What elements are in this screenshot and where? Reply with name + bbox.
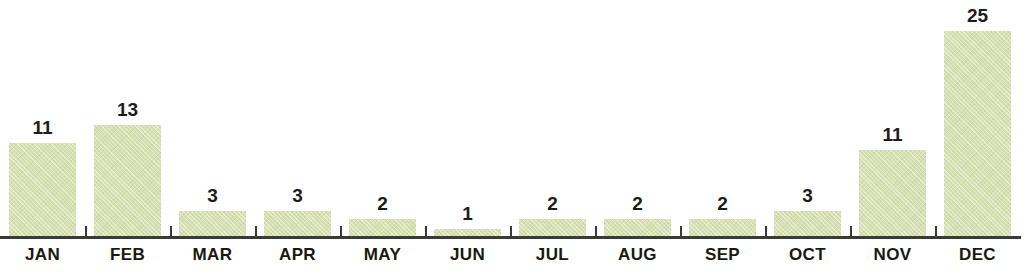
axis-tick (85, 226, 87, 237)
category-label-apr: APR (255, 244, 340, 266)
bar-value-label: 2 (595, 194, 680, 213)
bar-value-label: 13 (85, 100, 170, 119)
bar-slot[interactable]: 13 (85, 0, 170, 238)
bar-value-label: 25 (935, 6, 1020, 25)
bar-value-label: 3 (765, 186, 850, 205)
category-label-feb: FEB (85, 244, 170, 266)
category-label-dec: DEC (935, 244, 1020, 266)
axis-tick (510, 226, 512, 237)
category-axis-labels: JAN FEB MAR APR MAY JUN JUL AUG SEP OCT … (0, 244, 1022, 274)
category-label-sep: SEP (680, 244, 765, 266)
bar-slot[interactable]: 2 (680, 0, 765, 238)
axis-tick (425, 226, 427, 237)
category-label-aug: AUG (595, 244, 680, 266)
category-label-oct: OCT (765, 244, 850, 266)
bar-slot[interactable]: 3 (765, 0, 850, 238)
bar[interactable] (179, 211, 245, 238)
bar-slot[interactable]: 25 (935, 0, 1020, 238)
category-label-may: MAY (340, 244, 425, 266)
axis-tick (170, 226, 172, 237)
bar-slot[interactable]: 1 (425, 0, 510, 238)
bar-value-label: 1 (425, 204, 510, 223)
bar[interactable] (9, 143, 75, 238)
bar[interactable] (774, 211, 840, 238)
bar-value-label: 11 (850, 125, 935, 144)
bar-slot[interactable]: 3 (170, 0, 255, 238)
category-label-mar: MAR (170, 244, 255, 266)
axis-tick (255, 226, 257, 237)
bar[interactable] (264, 211, 330, 238)
bar-slot[interactable]: 11 (0, 0, 85, 238)
bar-slot[interactable]: 2 (340, 0, 425, 238)
bar[interactable] (94, 125, 160, 238)
bar-value-label: 3 (255, 186, 340, 205)
plot-area: 11 13 3 3 2 1 2 2 (0, 0, 1022, 238)
bar-slot[interactable]: 2 (595, 0, 680, 238)
bar-value-label: 2 (680, 194, 765, 213)
axis-tick (935, 226, 937, 237)
bar-value-label: 2 (340, 194, 425, 213)
category-label-nov: NOV (850, 244, 935, 266)
bar-slot[interactable]: 11 (850, 0, 935, 238)
axis-tick (765, 226, 767, 237)
bar-value-label: 2 (510, 194, 595, 213)
category-label-jan: JAN (0, 244, 85, 266)
bar[interactable] (859, 150, 925, 238)
bar-slot[interactable]: 2 (510, 0, 595, 238)
bar-slot[interactable]: 3 (255, 0, 340, 238)
bar[interactable] (944, 31, 1010, 238)
bar-chart: 11 13 3 3 2 1 2 2 (0, 0, 1033, 279)
axis-tick (850, 226, 852, 237)
category-label-jun: JUN (425, 244, 510, 266)
bar-value-label: 11 (0, 118, 85, 137)
axis-tick (680, 226, 682, 237)
bar-value-label: 3 (170, 186, 255, 205)
axis-tick (595, 226, 597, 237)
category-label-jul: JUL (510, 244, 595, 266)
axis-tick (340, 226, 342, 237)
